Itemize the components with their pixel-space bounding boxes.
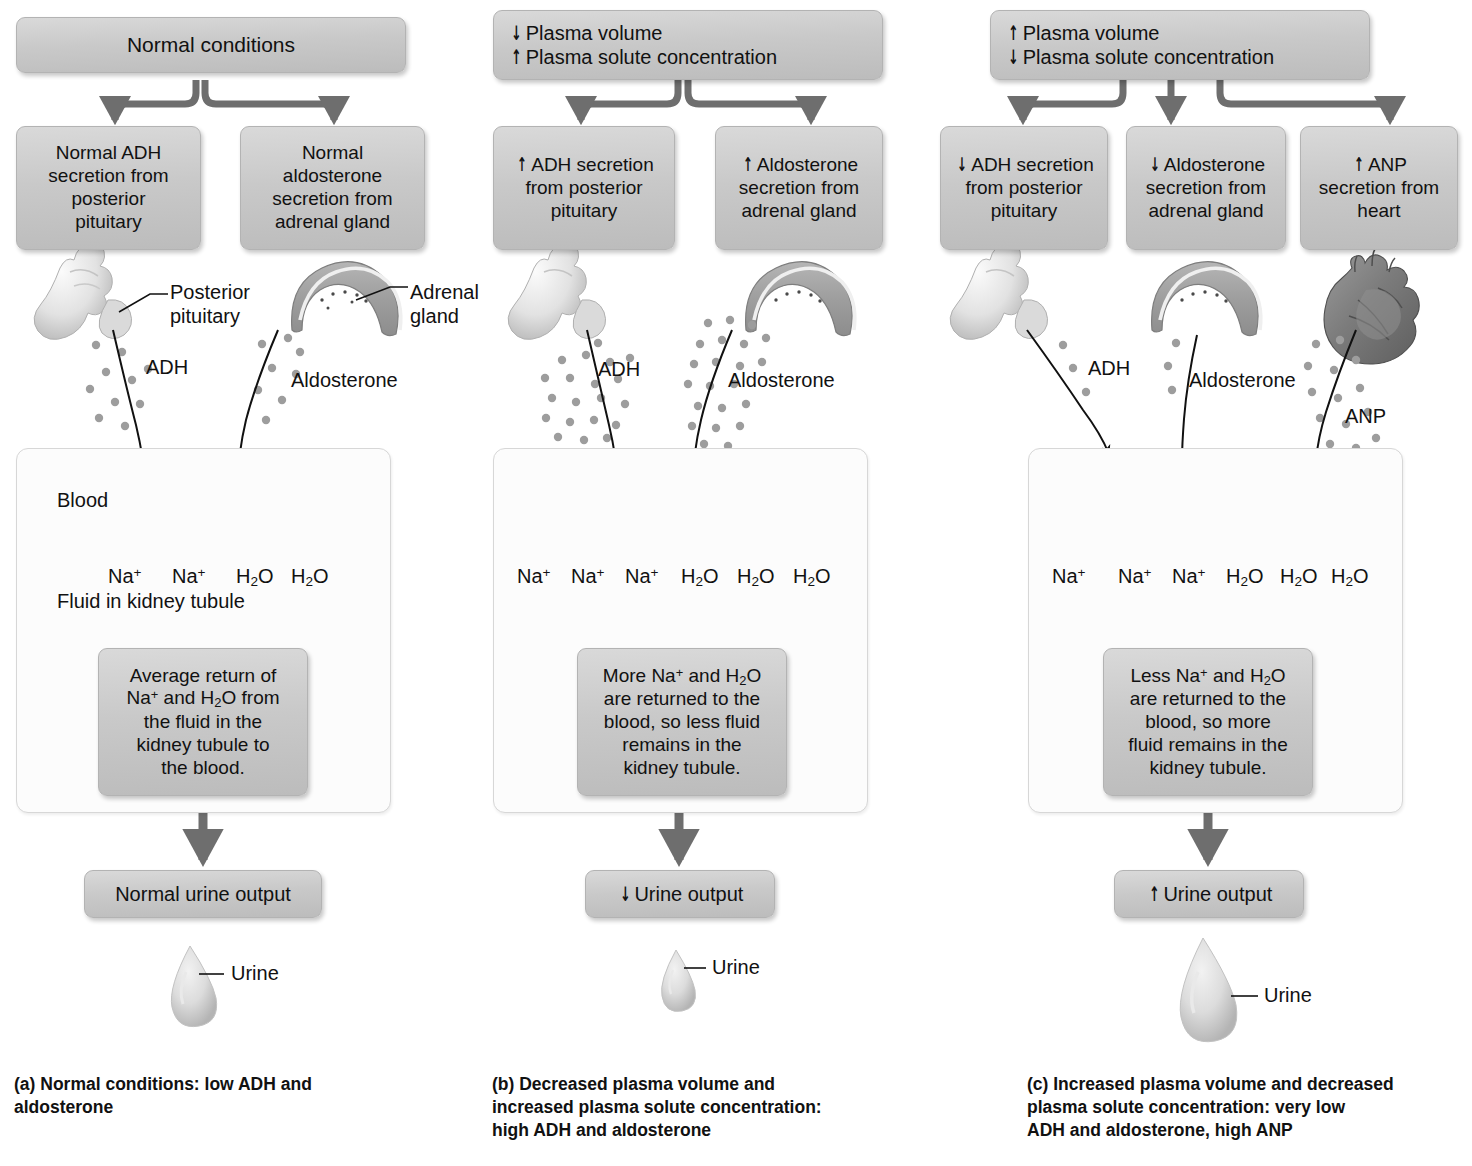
panel-c-pituitary-illustration [950, 242, 1047, 340]
panel-c-na-label-3: Na+ [1172, 565, 1206, 588]
panel-c-na-label-1: Na+ [1052, 565, 1086, 588]
panel-c-flow-connectors [1023, 80, 1390, 120]
panel-a-urine-label: Urine [231, 962, 279, 985]
panel-c-secretion-box-aldosterone[interactable]: ↓Aldosterone secretion from adrenal glan… [1126, 126, 1286, 250]
aldo-box-line-3: secretion from [272, 188, 392, 209]
caption-b-line-2: increased plasma solute concentration: [492, 1096, 962, 1119]
panel-a-top-box-label: Normal conditions [17, 32, 405, 57]
panel-c-top-box[interactable]: ↑Plasma volume ↓Plasma solute concentrat… [990, 10, 1370, 80]
panel-b-expl-line-2: are returned to the [604, 688, 760, 709]
panel-c-anp-line-3: heart [1357, 200, 1400, 221]
panel-b-secretion-box-adh[interactable]: ↑ADH secretion from posterior pituitary [493, 126, 675, 250]
panel-a-explanation-box[interactable]: Average return of Na+ and H2O from the f… [98, 648, 308, 796]
panel-c-urine-label: Urine [1264, 984, 1312, 1007]
caption-a-line-1: (a) Normal conditions: low ADH and [14, 1073, 434, 1096]
panel-c-secretion-box-adh[interactable]: ↓ADH secretion from posterior pituitary [940, 126, 1108, 250]
panel-a-tubule-label: Fluid in kidney tubule [57, 590, 245, 613]
urine-flow-arrows [203, 812, 1208, 860]
panel-b-urine-output-box[interactable]: ↓Urine output [585, 870, 775, 918]
panel-a-expl-line-1: Average return of [130, 665, 276, 686]
panel-a-adh-label: ADH [146, 356, 188, 379]
panel-a-top-box[interactable]: Normal conditions [16, 17, 406, 73]
panel-b-adh-line-2: from posterior [525, 177, 642, 198]
up-arrow-icon: ↑ [1149, 882, 1159, 906]
panel-c-aldo-line-1: Aldosterone [1164, 154, 1265, 175]
panel-c-h2o-label-1: H2O [1226, 565, 1264, 589]
panel-c-na-label-2: Na+ [1118, 565, 1152, 588]
panel-a-adrenal-gland-illustration [292, 262, 401, 336]
up-arrow-icon: ↑ [743, 153, 753, 176]
panel-a-aldosterone-label: Aldosterone [291, 369, 398, 392]
panel-c-expl-line-3: blood, so more [1145, 711, 1271, 732]
panel-c-urine-output-box[interactable]: ↑Urine output [1114, 870, 1304, 918]
panel-c-expl-line-2: are returned to the [1130, 688, 1286, 709]
panel-a-expl-line-4: kidney tubule to [136, 734, 269, 755]
panel-b-h2o-label-1: H2O [681, 565, 719, 589]
panel-b-expl-line-5: kidney tubule. [623, 757, 740, 778]
panel-c-aldosterone-label: Aldosterone [1189, 369, 1296, 392]
panel-c-expl-line-5: kidney tubule. [1149, 757, 1266, 778]
panel-c-adh-dots [1059, 341, 1090, 396]
panel-c-urine-drop [1180, 938, 1237, 1042]
panel-b-aldosterone-label: Aldosterone [728, 369, 835, 392]
panel-c-adh-label: ADH [1088, 357, 1130, 380]
panel-c-adh-line-3: pituitary [991, 200, 1058, 221]
caption-b-line-3: high ADH and aldosterone [492, 1119, 962, 1142]
panel-b-flow-connectors [581, 80, 811, 120]
panel-c-aldosterone-dots [1164, 339, 1180, 394]
panel-b-urine-drop [662, 950, 696, 1011]
panel-c-urine-output-label: Urine output [1163, 883, 1272, 905]
down-arrow-icon: ↓ [1008, 45, 1018, 69]
caption-c-line-2: plasma solute concentration: very low [1027, 1096, 1472, 1119]
panel-b-top-line-1: Plasma volume [526, 22, 663, 44]
up-arrow-icon: ↑ [1008, 21, 1018, 45]
aldo-box-line-2: aldosterone [283, 165, 382, 186]
down-arrow-icon: ↓ [957, 153, 967, 176]
caption-b: (b) Decreased plasma volume and increase… [492, 1073, 962, 1142]
panel-a-posterior-pituitary-label: Posterior pituitary [170, 281, 250, 328]
panel-b-na-label-3: Na+ [625, 565, 659, 588]
panel-a-h2o-label-2: H2O [291, 565, 329, 589]
panel-b-expl-line-3: blood, so less fluid [604, 711, 760, 732]
caption-c-line-3: ADH and aldosterone, high ANP [1027, 1119, 1472, 1142]
panel-b-urine-label: Urine [712, 956, 760, 979]
panel-b-top-box[interactable]: ↓Plasma volume ↑Plasma solute concentrat… [493, 10, 883, 80]
panel-c-adrenal-gland-illustration [1152, 262, 1261, 336]
panel-c-h2o-label-2: H2O [1280, 565, 1318, 589]
panel-a-expl-line-3: the fluid in the [144, 711, 262, 732]
panel-c-top-line-2: Plasma solute concentration [1023, 46, 1274, 68]
panel-c-adh-line-2: from posterior [965, 177, 1082, 198]
panel-c-aldo-line-3: adrenal gland [1148, 200, 1263, 221]
panel-b-adrenal-gland-illustration [746, 262, 855, 336]
panel-b-aldo-line-2: secretion from [739, 177, 859, 198]
panel-a-secretion-box-adh[interactable]: Normal ADH secretion from posterior pitu… [16, 126, 201, 250]
panel-c-h2o-label-3: H2O [1331, 565, 1369, 589]
adh-box-line-1: Normal ADH [56, 142, 162, 163]
panel-a-na-label-1: Na+ [108, 565, 142, 588]
panel-b-aldo-line-1: Aldosterone [757, 154, 858, 175]
panel-b-h2o-label-3: H2O [793, 565, 831, 589]
panel-c-anp-label: ANP [1345, 405, 1386, 428]
panel-a-urine-output-box[interactable]: Normal urine output [84, 870, 322, 918]
caption-c-line-1: (c) Increased plasma volume and decrease… [1027, 1073, 1472, 1096]
panel-b-top-line-2: Plasma solute concentration [526, 46, 777, 68]
panel-a-blood-label: Blood [57, 489, 108, 512]
panel-c-secretion-box-anp[interactable]: ↑ANP secretion from heart [1300, 126, 1458, 250]
panel-b-adh-dots [541, 339, 634, 444]
adh-box-line-4: pituitary [75, 211, 142, 232]
panel-c-explanation-box[interactable]: Less Na+ and H2O are returned to the blo… [1103, 648, 1313, 796]
panel-c-anp-line-2: secretion from [1319, 177, 1439, 198]
aldo-box-line-1: Normal [302, 142, 363, 163]
panel-b-secretion-box-aldosterone[interactable]: ↑Aldosterone secretion from adrenal glan… [715, 126, 883, 250]
up-arrow-icon: ↑ [517, 153, 527, 176]
panel-c-adh-line-1: ADH secretion [971, 154, 1094, 175]
panel-a-adh-dots [86, 341, 152, 430]
panel-a-secretion-box-aldosterone[interactable]: Normal aldosterone secretion from adrena… [240, 126, 425, 250]
panel-b-aldo-line-3: adrenal gland [741, 200, 856, 221]
panel-a-h2o-label-1: H2O [236, 565, 274, 589]
panel-c-top-line-1: Plasma volume [1023, 22, 1160, 44]
panel-a-urine-output-label: Normal urine output [85, 882, 321, 906]
panel-b-explanation-box[interactable]: More Na+ and H2O are returned to the blo… [577, 648, 787, 796]
aldo-box-line-4: adrenal gland [275, 211, 390, 232]
adh-box-line-2: secretion from [48, 165, 168, 186]
